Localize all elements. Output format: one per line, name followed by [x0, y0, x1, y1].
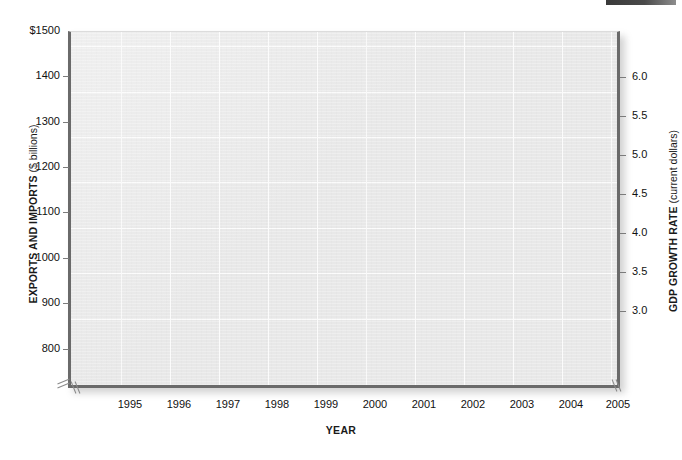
y-axis-left-tick-mark: [63, 122, 69, 123]
y-axis-right-title-strong: GDP GROWTH RATE: [667, 206, 679, 312]
gridline-vertical: [611, 32, 612, 385]
x-axis-tick-label: 2003: [502, 398, 542, 410]
gridline-vertical: [170, 32, 171, 385]
y-axis-left-tick-label: 1400: [0, 69, 60, 81]
y-axis-right-tick-label: 5.0: [632, 148, 647, 160]
x-axis-title: YEAR: [0, 424, 682, 436]
y-axis-left-tick-label: $1500: [0, 24, 60, 36]
x-axis-tick-label: 2001: [404, 398, 444, 410]
y-axis-right-tick-label: 6.0: [632, 70, 647, 82]
x-axis-tick-label: 2005: [598, 398, 638, 410]
x-axis-tick-label: 1996: [159, 398, 199, 410]
y-axis-right-tick-label: 3.5: [632, 265, 647, 277]
x-axis-left-break-mark: [70, 381, 82, 395]
gridline-horizontal: [71, 228, 617, 229]
y-axis-left-title-light: ($ billions): [27, 125, 39, 176]
y-axis-left-tick-mark: [63, 76, 69, 77]
y-axis-right-tick-label: 4.5: [632, 187, 647, 199]
y-axis-left-title: EXPORTS AND IMPORTS ($ billions): [27, 99, 39, 329]
y-axis-right-tick-mark: [620, 77, 626, 78]
gridline-vertical: [366, 32, 367, 385]
x-axis-tick-label: 1995: [110, 398, 150, 410]
gridline-horizontal: [71, 273, 617, 274]
gridline-vertical: [317, 32, 318, 385]
x-axis-tick-label: 1999: [306, 398, 346, 410]
plot-highlight-overlay: [71, 32, 617, 385]
plot-area: [68, 31, 620, 388]
y-axis-right-tick-mark: [620, 116, 626, 117]
y-axis-right-tick-label: 5.5: [632, 109, 647, 121]
y-axis-right-tick-mark: [620, 155, 626, 156]
y-axis-right-title-light: (current dollars): [667, 130, 679, 206]
y-axis-left-tick-mark: [63, 212, 69, 213]
gridline-vertical: [415, 32, 416, 385]
gridline-horizontal: [71, 92, 617, 93]
y-axis-left-tick-mark: [63, 303, 69, 304]
y-axis-left-tick-mark: [63, 167, 69, 168]
gridline-horizontal: [71, 137, 617, 138]
y-axis-right-tick-label: 3.0: [632, 304, 647, 316]
y-axis-left-break-mark: [57, 378, 71, 390]
x-axis-tick-label: 1997: [208, 398, 248, 410]
gridline-horizontal: [71, 182, 617, 183]
gridline-horizontal: [71, 46, 617, 47]
y-axis-right-title: GDP GROWTH RATE (current dollars): [667, 91, 679, 351]
gridline-vertical: [121, 32, 122, 385]
y-axis-left-tick-mark: [63, 258, 69, 259]
y-axis-right-tick-mark: [620, 233, 626, 234]
y-axis-right-tick-mark: [620, 272, 626, 273]
gridline-vertical: [513, 32, 514, 385]
gridline-vertical: [219, 32, 220, 385]
plot-texture-overlay: [71, 32, 617, 385]
y-axis-right-tick-mark: [620, 194, 626, 195]
gridline-vertical: [464, 32, 465, 385]
chart-figure: $150014001300120011001000900800 EXPORTS …: [0, 0, 682, 460]
gridline-horizontal: [71, 319, 617, 320]
y-axis-left-tick-mark: [63, 349, 69, 350]
x-axis-right-break-mark: [611, 379, 623, 393]
y-axis-right-tick-label: 4.0: [632, 226, 647, 238]
x-axis-tick-label: 1998: [257, 398, 297, 410]
x-axis-tick-label: 2002: [453, 398, 493, 410]
x-axis-tick-label: 2000: [355, 398, 395, 410]
y-axis-left-title-strong: EXPORTS AND IMPORTS: [27, 175, 39, 303]
x-axis-tick-label: 2004: [551, 398, 591, 410]
y-axis-left-tick-label: 800: [0, 342, 60, 354]
gridline-vertical: [562, 32, 563, 385]
y-axis-right-tick-mark: [620, 311, 626, 312]
gridline-vertical: [268, 32, 269, 385]
